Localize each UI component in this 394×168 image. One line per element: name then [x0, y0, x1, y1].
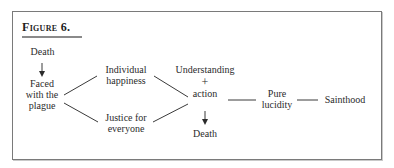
node-label: plague — [20, 100, 64, 111]
node-label: + — [168, 76, 242, 88]
node-label: Sainthood — [319, 94, 371, 105]
node-label: Pure — [257, 88, 297, 99]
line-faced-to-justice — [64, 103, 98, 122]
node-label: Individual — [97, 64, 155, 75]
node-faced-with-the-plague: Faced with the plague — [20, 78, 64, 111]
node-label: action — [168, 88, 242, 100]
node-label: happiness — [97, 75, 155, 86]
arrowhead-icon — [39, 71, 45, 77]
node-death-top: Death — [28, 46, 57, 57]
node-pure-lucidity: Pure lucidity — [257, 88, 297, 110]
node-label: everyone — [97, 123, 155, 134]
node-death-bottom: Death — [190, 128, 220, 139]
arrowhead-icon — [202, 119, 208, 125]
node-sainthood: Sainthood — [319, 94, 371, 105]
node-justice-for-everyone: Justice for everyone — [97, 112, 155, 134]
node-individual-happiness: Individual happiness — [97, 64, 155, 86]
node-label: Death — [28, 46, 57, 57]
node-label: Faced — [20, 78, 64, 89]
node-label: Justice for — [97, 112, 155, 123]
node-label: lucidity — [257, 99, 297, 110]
line-faced-to-individual — [64, 76, 97, 95]
node-understanding-action: Understanding + action — [168, 64, 242, 100]
node-label: with the — [20, 89, 64, 100]
line-justice-to-action — [153, 104, 188, 122]
node-label: Death — [190, 128, 220, 139]
